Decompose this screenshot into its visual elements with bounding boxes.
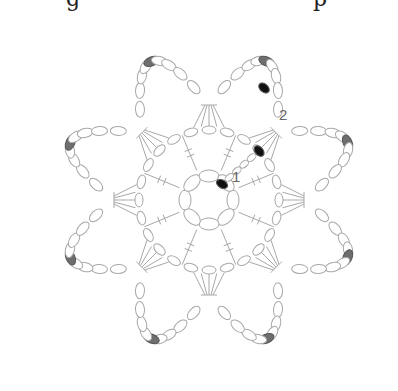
round-chain [166,254,182,268]
loop-chain [313,176,331,193]
round-chain [136,210,147,226]
slip-stitch-round-2 [257,81,271,95]
loop-chain [313,207,331,224]
loop-chain [76,127,94,140]
round-chain [219,262,235,273]
cluster-stitch [201,274,207,295]
round-2-label: 2 [279,106,287,123]
loop-chain [185,304,202,322]
loop-chain [273,82,283,99]
round-chain [263,157,277,173]
loop-chain [135,301,145,318]
round-chain [219,127,235,138]
loop-chain [291,126,307,136]
round-chain [141,157,155,173]
cluster-stitch [283,192,304,198]
cluster-stitch [213,272,224,295]
cluster-stitch [114,202,135,208]
cluster-stitch [283,202,304,208]
treble-stitch [239,212,274,227]
round-chain [202,266,216,274]
loop-chain [87,207,105,224]
loop-chain [310,264,327,274]
center-ring-chain [227,190,239,210]
round-chain [271,174,282,190]
cluster-stitch [211,105,217,126]
round-chain [275,193,283,207]
crochet-diagram: g p 1 2 [0,0,398,391]
loop-chain [135,101,145,117]
center-ring-chain [179,190,191,210]
diagram-shapes [63,54,355,346]
round-chain [141,227,155,243]
loop-chain [270,67,283,85]
loop-chain [185,78,202,96]
round-chain [183,127,199,138]
round-chain [236,132,252,146]
diagram-canvas: 1 2 [0,0,398,391]
loop-chain [87,176,105,193]
round-chain [263,227,277,243]
loop-chain [310,126,327,136]
cluster-stitch [114,192,135,198]
center-ring-chain [199,218,219,230]
cluster-stitch [201,105,207,126]
round-chain [271,210,282,226]
cluster-stitch [211,274,217,295]
treble-stitch [144,212,179,227]
treble-stitch [239,173,274,188]
cluster-stitch [194,105,205,128]
loop-chain [216,78,233,96]
round-chain [135,193,143,207]
top-text-fragment-right: p [313,0,327,11]
loop-chain [91,264,108,274]
cluster-stitch [281,204,304,215]
loop-chain [216,304,233,322]
loop-chain [91,126,108,136]
loop-chain [135,282,145,298]
cluster-stitch [194,272,205,295]
loop-chain [136,315,149,333]
round-chain [136,174,147,190]
treble-stitch [144,173,179,188]
round-chain [183,262,199,273]
round-1-label: 1 [232,168,240,185]
treble-stitch [182,230,197,265]
loop-chain [324,261,342,274]
loop-chain [110,264,126,274]
round-chain [166,132,182,146]
round-chain [236,254,252,268]
cluster-stitch [114,204,137,215]
cluster-stitch [114,185,137,196]
loop-chain [291,264,307,274]
loop-chain [135,82,145,99]
round-chain [202,126,216,134]
loop-chain [273,282,283,298]
loop-chain [273,301,283,318]
treble-stitch [221,230,236,265]
treble-stitch [182,135,197,170]
cluster-stitch [213,105,224,128]
center-ring-chain [199,170,219,182]
top-text-fragment-left: g [66,0,80,11]
cluster-stitch [281,185,304,196]
treble-stitch [221,135,236,170]
loop-chain [110,126,126,136]
